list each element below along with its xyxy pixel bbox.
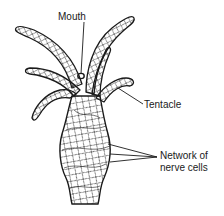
- label-tentacle: Tentacle: [144, 99, 181, 111]
- hydra-body: [60, 96, 110, 204]
- label-network-line1: Network of: [160, 150, 208, 162]
- label-mouth: Mouth: [58, 11, 86, 23]
- tentacle-leader: [118, 88, 143, 104]
- hydra-diagram: [0, 0, 224, 216]
- network-leader-3: [110, 157, 157, 162]
- label-network-line2: nerve cells: [160, 162, 208, 174]
- mouth-leader: [81, 22, 84, 74]
